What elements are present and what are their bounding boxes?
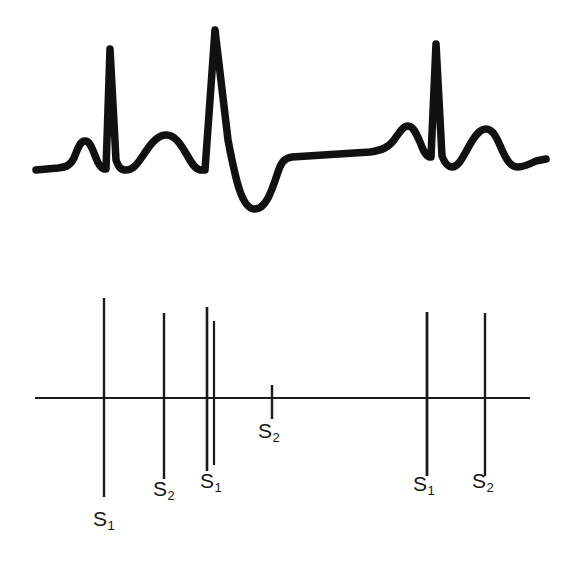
label-s2-second-text: S — [258, 419, 272, 442]
ecg-waveform-path — [36, 30, 546, 209]
sound-panel: S1 S2 S1 S2 S1 S2 — [0, 280, 561, 574]
label-s2-first-text: S — [153, 477, 167, 500]
sound-svg — [0, 280, 561, 574]
ecg-svg — [0, 0, 561, 287]
label-s1-first-sub: 1 — [108, 518, 115, 533]
label-s2-third-text: S — [472, 469, 486, 492]
figure-root: S1 S2 S1 S2 S1 S2 — [0, 0, 561, 574]
label-s2-first-sub: 2 — [168, 488, 175, 503]
label-s1-first-text: S — [93, 507, 107, 530]
ecg-trace-group — [36, 30, 546, 209]
ecg-panel — [0, 0, 561, 287]
label-s1-second: S1 — [200, 470, 221, 491]
label-s1-third: S1 — [413, 473, 434, 494]
label-s2-third: S2 — [472, 470, 493, 491]
label-s1-first: S1 — [93, 508, 114, 529]
label-s2-second-sub: 2 — [273, 430, 280, 445]
label-s2-third-sub: 2 — [487, 480, 494, 495]
label-s2-first: S2 — [153, 478, 174, 499]
label-s1-third-text: S — [413, 472, 427, 495]
label-s1-second-sub: 1 — [215, 480, 222, 495]
label-s1-third-sub: 1 — [428, 483, 435, 498]
label-s2-second: S2 — [258, 420, 279, 441]
label-s1-second-text: S — [200, 469, 214, 492]
